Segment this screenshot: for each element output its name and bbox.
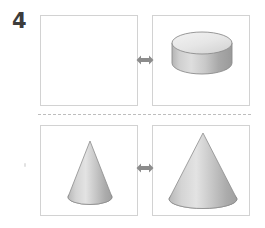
double-headed-arrow-icon-top: [136, 53, 154, 67]
worksheet-canvas: 4: [0, 0, 265, 228]
question-number: 4: [12, 8, 36, 34]
cylinder-shape: [170, 30, 234, 86]
cone-shape-small: [66, 140, 114, 206]
stray-mark: [24, 163, 26, 167]
cone-shape-large: [167, 132, 239, 210]
double-headed-arrow-icon-bottom: [136, 161, 154, 175]
panel-top-left[interactable]: [40, 15, 138, 106]
section-divider: [38, 114, 251, 115]
